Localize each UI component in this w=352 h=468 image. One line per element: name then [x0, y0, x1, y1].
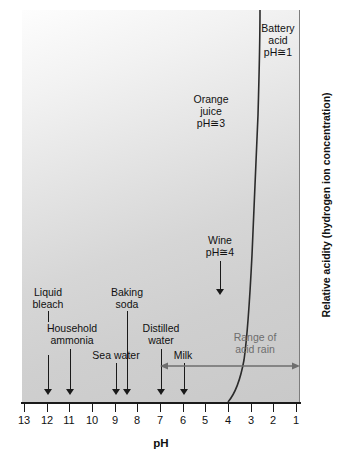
annotation-liquid-bleach-line2: bleach [20, 298, 76, 310]
annotation-battery-acid: Battery acid pH≅1 [250, 22, 306, 58]
acid-rain-range-arrow [160, 360, 300, 372]
x-tick-5 [205, 404, 206, 412]
annotation-battery-acid-line3: pH≅1 [250, 46, 306, 58]
x-axis-title: pH [0, 437, 322, 449]
x-tick-label-13: 13 [14, 414, 34, 427]
arrow-wine [216, 289, 224, 295]
leader-liquid-bleach [48, 355, 49, 390]
x-tick-10 [92, 404, 93, 412]
x-tick-label-8: 8 [127, 414, 147, 427]
y-axis-title: Relative acidity (hydrogen ion concentra… [318, 0, 334, 410]
x-tick-label-4: 4 [218, 414, 238, 427]
annotation-baking-soda-line2: soda [99, 298, 155, 310]
x-tick-label-6: 6 [173, 414, 193, 427]
arrow-baking-soda [123, 389, 131, 395]
leader-household-ammonia [70, 349, 71, 390]
leader-wine [220, 261, 221, 290]
x-tick-label-9: 9 [105, 414, 125, 427]
x-tick-label-5: 5 [195, 414, 215, 427]
x-tick-6 [183, 404, 184, 412]
x-tick-label-2: 2 [263, 414, 283, 427]
leader-baking-soda [127, 311, 128, 390]
arrow-distilled-water [157, 389, 165, 395]
x-axis-line [21, 402, 301, 404]
annotation-household-ammonia-line2: ammonia [36, 334, 108, 346]
arrow-liquid-bleach [44, 389, 52, 395]
arrow-sea-water [112, 389, 120, 395]
chart-figure: 13 12 11 10 9 8 7 6 5 4 3 2 1 pH Relativ… [0, 0, 352, 468]
annotation-liquid-bleach: Liquid bleach [20, 286, 76, 310]
arrow-household-ammonia [66, 389, 74, 395]
x-tick-label-7: 7 [150, 414, 170, 427]
annotation-battery-acid-line1: Battery [250, 22, 306, 34]
annotation-wine-line2: pH≅4 [196, 246, 244, 258]
leader-liquid-bleach-upper [48, 311, 49, 322]
annotation-orange-juice-line2: juice [183, 105, 239, 117]
x-tick-12 [47, 404, 48, 412]
x-tick-7 [160, 404, 161, 412]
x-tick-2 [273, 404, 274, 412]
x-tick-11 [69, 404, 70, 412]
x-tick-label-10: 10 [82, 414, 102, 427]
annotation-sea-water: Sea water [88, 349, 144, 361]
x-tick-label-3: 3 [241, 414, 261, 427]
annotation-baking-soda-line1: Baking [99, 286, 155, 298]
annotation-orange-juice: Orange juice pH≅3 [183, 93, 239, 129]
annotation-liquid-bleach-line1: Liquid [20, 286, 76, 298]
annotation-baking-soda: Baking soda [99, 286, 155, 310]
annotation-orange-juice-line3: pH≅3 [183, 117, 239, 129]
annotation-wine-line1: Wine [196, 234, 244, 246]
x-tick-label-11: 11 [59, 414, 79, 427]
x-tick-3 [251, 404, 252, 412]
annotation-battery-acid-line2: acid [250, 34, 306, 46]
x-tick-label-1: 1 [286, 414, 306, 427]
x-tick-13 [24, 404, 25, 412]
annotation-acid-rain: Range of acid rain [219, 331, 291, 355]
x-tick-4 [228, 404, 229, 412]
leader-sea-water [116, 363, 117, 390]
x-tick-9 [115, 404, 116, 412]
annotation-sea-water-line1: Sea water [88, 349, 144, 361]
annotation-distilled-water-line1: Distilled [133, 322, 189, 334]
arrow-milk [180, 389, 188, 395]
annotation-wine: Wine pH≅4 [196, 234, 244, 258]
x-tick-label-12: 12 [37, 414, 57, 427]
annotation-household-ammonia: Household ammonia [36, 322, 108, 346]
x-tick-1 [296, 404, 297, 412]
annotation-acid-rain-line2: acid rain [219, 343, 291, 355]
annotation-acid-rain-line1: Range of [219, 331, 291, 343]
annotation-orange-juice-line1: Orange [183, 93, 239, 105]
annotation-distilled-water: Distilled water [133, 322, 189, 346]
x-tick-8 [137, 404, 138, 412]
annotation-distilled-water-line2: water [133, 334, 189, 346]
annotation-household-ammonia-line1: Household [36, 322, 108, 334]
